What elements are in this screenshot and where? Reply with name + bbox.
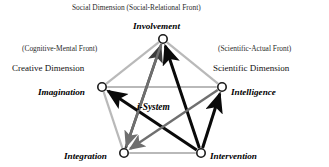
cognitive-mental-front-note: (Cognitive-Mental Front) — [22, 45, 97, 52]
scientific-actual-front-note: (Scientific-Actual Front) — [218, 45, 291, 52]
node-label-involvement: Involvement — [133, 22, 180, 31]
node-label-integration: Integration — [64, 152, 107, 161]
i-system-diagram: Social Dimension (Social-Relational Fron… — [0, 0, 329, 167]
i-system-center-label: i-System — [137, 103, 170, 112]
arrow-intervention-to-intelligence — [203, 94, 220, 148]
node-intervention — [197, 149, 205, 157]
scientific-dimension-label: Scientific Dimension — [213, 64, 289, 73]
creative-dimension-label: Creative Dimension — [12, 64, 84, 73]
node-imagination — [98, 83, 106, 91]
node-label-intervention: Intervention — [210, 152, 257, 161]
node-label-intelligence: Intelligence — [231, 88, 276, 97]
node-involvement — [159, 35, 167, 43]
pentagon-perimeter-edges — [104, 42, 221, 153]
node-label-imagination: Imagination — [38, 88, 85, 97]
i-system-directed-edges — [108, 44, 220, 150]
social-dimension-heading: Social Dimension (Social-Relational Fron… — [72, 4, 201, 11]
node-intelligence — [218, 83, 226, 91]
node-integration — [120, 149, 128, 157]
